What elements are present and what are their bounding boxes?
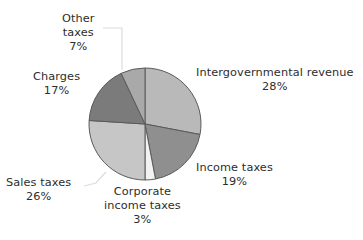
leader-line-other-taxes bbox=[103, 28, 122, 70]
slice-label-value: 28% bbox=[196, 80, 354, 94]
slice-label-sales-taxes: Sales taxes 26% bbox=[6, 176, 71, 204]
pie-slice-sales-taxes bbox=[89, 120, 145, 180]
slice-label-value: 3% bbox=[104, 213, 181, 227]
slice-label-text-2: income taxes bbox=[104, 199, 181, 213]
slice-label-income-taxes: Income taxes 19% bbox=[196, 161, 273, 189]
slice-label-value: 7% bbox=[62, 40, 95, 54]
leader-line-sales-taxes bbox=[84, 172, 106, 186]
slice-label-text: Other bbox=[62, 12, 95, 26]
pie-chart-canvas bbox=[0, 0, 363, 240]
slice-label-value: 19% bbox=[196, 175, 273, 189]
slice-label-value: 26% bbox=[6, 190, 71, 204]
slice-label-text-2: taxes bbox=[62, 26, 95, 40]
slice-label-text: Sales taxes bbox=[6, 176, 71, 190]
slice-label-charges: Charges 17% bbox=[33, 70, 80, 98]
slice-label-text: Intergovernmental revenue bbox=[196, 66, 354, 80]
slice-label-intergovernmental-revenue: Intergovernmental revenue 28% bbox=[196, 66, 354, 94]
slice-label-text: Charges bbox=[33, 70, 80, 84]
pie-slice-intergovernmental-revenue bbox=[145, 68, 201, 134]
slice-label-text: Corporate bbox=[104, 185, 181, 199]
slice-label-text: Income taxes bbox=[196, 161, 273, 175]
pie-chart: Intergovernmental revenue 28% Income tax… bbox=[0, 0, 363, 240]
slice-label-corporate-income-taxes: Corporate income taxes 3% bbox=[104, 185, 181, 226]
slice-label-other-taxes: Other taxes 7% bbox=[62, 12, 95, 53]
pie-slices bbox=[89, 68, 201, 180]
slice-label-value: 17% bbox=[33, 84, 80, 98]
